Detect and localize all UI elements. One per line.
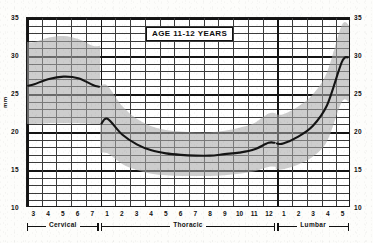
region-label-text: Thoracic (170, 221, 206, 228)
x-tick-T12: 12 (262, 210, 277, 217)
region-label-text: Cervical (46, 221, 80, 228)
x-tick-C7: 7 (85, 210, 100, 217)
x-tick-C3: 3 (26, 210, 41, 217)
mean-curve-lumbar (277, 57, 348, 144)
region-label: Lumbar (277, 221, 349, 228)
x-tick-C6: 6 (70, 210, 85, 217)
y-tick-right-25: 25 (354, 90, 362, 97)
y-tick-right-15: 15 (354, 166, 362, 173)
x-tick-T5: 5 (159, 210, 174, 217)
region-thoracic: Thoracic (101, 221, 276, 235)
x-tick-T1: 1 (100, 210, 115, 217)
y-axis-title: mm (2, 96, 8, 108)
x-tick-C4: 4 (41, 210, 56, 217)
x-tick-T4: 4 (144, 210, 159, 217)
y-tick-right-20: 20 (354, 128, 362, 135)
mean-curve-cervical (28, 77, 99, 87)
x-tick-L4: 4 (321, 210, 336, 217)
region-label-text: Lumbar (297, 221, 329, 228)
x-tick-C5: 5 (55, 210, 70, 217)
x-tick-T10: 10 (232, 210, 247, 217)
mean-curve-thoracic (101, 118, 274, 155)
x-tick-T2: 2 (114, 210, 129, 217)
region-label: Thoracic (101, 221, 276, 228)
x-tick-T3: 3 (129, 210, 144, 217)
region-cervical: Cervical (27, 221, 99, 235)
x-tick-T11: 11 (247, 210, 262, 217)
x-tick-T9: 9 (217, 210, 232, 217)
mean-curve-layer (27, 18, 349, 206)
x-tick-T6: 6 (173, 210, 188, 217)
x-tick-L2: 2 (291, 210, 306, 217)
region-label: Cervical (27, 221, 99, 228)
region-lumbar: Lumbar (277, 221, 349, 235)
x-tick-T7: 7 (188, 210, 203, 217)
x-tick-T8: 8 (203, 210, 218, 217)
chart-title: AGE 11-12 YEARS (146, 27, 233, 41)
x-tick-L5: 5 (335, 210, 350, 217)
y-tick-left-15: 15 (11, 166, 19, 173)
y-tick-left-25: 25 (11, 90, 19, 97)
y-tick-left-10: 10 (11, 204, 19, 211)
x-tick-L3: 3 (306, 210, 321, 217)
y-tick-right-30: 30 (354, 52, 362, 59)
y-tick-left-30: 30 (11, 52, 19, 59)
y-tick-left-35: 35 (11, 14, 19, 21)
x-tick-L1: 1 (276, 210, 291, 217)
chart-root: mm 101520253035 101520253035 AGE 11-12 Y… (0, 0, 373, 243)
plot-area (26, 17, 350, 207)
y-tick-right-35: 35 (354, 14, 362, 21)
y-tick-left-20: 20 (11, 128, 19, 135)
y-tick-right-10: 10 (354, 204, 362, 211)
